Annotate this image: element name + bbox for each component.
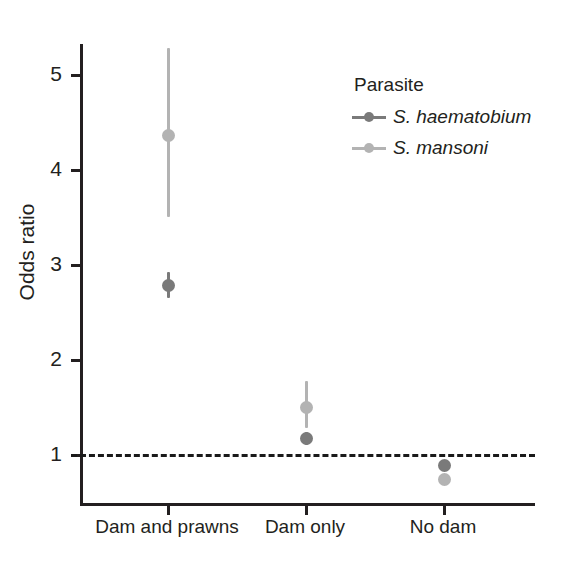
legend-item-haematobium[interactable]: S. haematobium [352,105,531,129]
y-tick-label-1: 1 [18,443,62,464]
y-tick-label-2: 2 [18,348,62,369]
point-haematobium-dam-and-prawns [162,279,175,292]
y-tick-5 [71,74,81,77]
x-tick-label-dam-only: Dam only [235,517,375,536]
point-haematobium-dam-only [300,432,313,445]
point-haematobium-no-dam [438,459,451,472]
legend-key-mansoni-icon [352,139,386,157]
legend-title: Parasite [352,74,531,96]
x-tick-label-no-dam: No dam [378,517,508,536]
legend-key-haematobium-icon [352,108,386,126]
y-tick-2 [71,359,81,362]
legend-item-mansoni[interactable]: S. mansoni [352,136,531,160]
point-mansoni-no-dam [438,473,451,486]
y-axis-title: Odds ratio [15,192,39,312]
x-tick-dam-and-prawns [167,505,170,515]
y-axis-line [80,44,83,505]
x-tick-dam-only [305,505,308,515]
legend: Parasite S. haematobium S. mansoni [352,74,531,167]
x-tick-no-dam [443,505,446,515]
point-mansoni-dam-only [300,401,313,414]
y-tick-4 [71,169,81,172]
y-tick-label-5: 5 [18,63,62,84]
y-tick-label-4: 4 [18,158,62,179]
legend-label-mansoni: S. mansoni [393,137,488,159]
odds-ratio-chart: 5 4 3 2 1 Odds ratio Dam and prawns Dam … [0,0,562,563]
reference-line-or-1 [71,454,535,457]
x-axis-line [80,503,535,506]
point-mansoni-dam-and-prawns [162,129,175,142]
y-tick-3 [71,264,81,267]
x-tick-label-dam-and-prawns: Dam and prawns [77,517,257,536]
legend-label-haematobium: S. haematobium [393,106,531,128]
